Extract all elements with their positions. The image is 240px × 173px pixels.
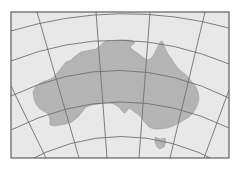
map-container <box>0 0 240 173</box>
map-svg <box>0 0 240 173</box>
